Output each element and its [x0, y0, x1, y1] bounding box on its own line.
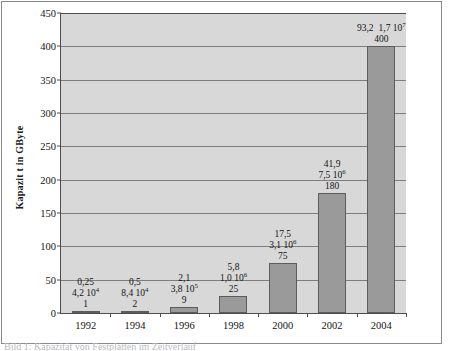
y-tick-label: 350	[40, 74, 56, 85]
bar-label-scientific: 1,0 106	[220, 273, 247, 284]
bar-value-label: 0,58,4 1042	[121, 277, 148, 310]
x-tick-mark	[258, 313, 259, 317]
x-tick-mark	[160, 313, 161, 317]
y-tick-label: 0	[51, 308, 56, 319]
bar-slot: 41,97,5 106180	[307, 13, 356, 313]
y-axis-title: Kapazit t in GByte	[10, 2, 30, 332]
bar-label-scientific: 1,7 107	[379, 23, 406, 34]
y-tick-label: 100	[40, 241, 56, 252]
bar[interactable]	[219, 296, 247, 313]
bar-value-label: 0,254,2 1041	[72, 277, 99, 310]
bar-label-value: 2	[121, 299, 148, 310]
bar-label-decimal: 93,2	[357, 23, 374, 34]
y-tick-label: 150	[40, 208, 56, 219]
bar[interactable]	[72, 311, 100, 314]
x-tick-mark	[209, 313, 210, 317]
bar-label-row: 93,21,7 107	[357, 23, 406, 34]
bar-value-label: 41,97,5 106180	[318, 159, 345, 192]
bar-label-value: 75	[269, 251, 296, 262]
bar-label-scientific: 4,2 104	[72, 288, 99, 299]
bar-label-value: 25	[220, 284, 247, 295]
bar-value-label: 5,81,0 10625	[220, 262, 247, 295]
x-tick-mark	[307, 313, 308, 317]
bar-slot: 2,13,8 1059	[160, 13, 209, 313]
y-tick-label: 50	[46, 274, 57, 285]
y-axis-title-text: Kapazit t in GByte	[15, 125, 26, 209]
x-tick-label: 1992	[75, 320, 96, 331]
y-tick-label: 200	[40, 174, 56, 185]
y-tick-label: 300	[40, 108, 56, 119]
x-tick-label: 2004	[371, 320, 392, 331]
plot-area: 050100150200250300350400450 0,254,2 1041…	[60, 13, 406, 314]
bar-slot: 17,53,1 10675	[258, 13, 307, 313]
bar-label-scientific: 8,4 104	[121, 288, 148, 299]
bottom-caption: Bild 1: Kapazität von Festplatten im Zei…	[4, 341, 404, 351]
bar-label-value: 180	[318, 181, 345, 192]
bar-slot: 0,254,2 1041	[61, 13, 110, 313]
bar-slot: 93,21,7 107400	[357, 13, 406, 313]
bar[interactable]	[367, 46, 395, 313]
x-tick-mark	[110, 313, 111, 317]
bar-label-value: 1	[72, 299, 99, 310]
bar-value-label: 17,53,1 10675	[269, 229, 296, 262]
bar[interactable]	[121, 311, 149, 314]
x-tick-label: 1998	[223, 320, 244, 331]
x-tick-mark	[357, 313, 358, 317]
x-tick-label: 2000	[272, 320, 293, 331]
bar-value-label: 93,21,7 107400	[357, 23, 406, 45]
bar[interactable]	[318, 193, 346, 313]
bar-label-scientific: 3,1 106	[269, 240, 296, 251]
bar-value-label: 2,13,8 1059	[171, 273, 198, 306]
x-tick-label: 2002	[322, 320, 343, 331]
x-tick-label: 1994	[124, 320, 145, 331]
bar[interactable]	[269, 263, 297, 313]
y-tick-label: 400	[40, 41, 56, 52]
bar-slot: 5,81,0 10625	[209, 13, 258, 313]
bar-label-value: 400	[357, 34, 406, 45]
y-tick-label: 450	[40, 8, 56, 19]
y-tick-label: 250	[40, 141, 56, 152]
bar-label-scientific: 3,8 105	[171, 284, 198, 295]
bar-label-value: 9	[171, 295, 198, 306]
figure-frame: Kapazit t in GByte 050100150200250300350…	[1, 1, 442, 344]
x-tick-label: 1996	[174, 320, 195, 331]
x-tick-mark	[406, 313, 407, 317]
bar[interactable]	[170, 307, 198, 313]
bar-slot: 0,58,4 1042	[110, 13, 159, 313]
bar-label-scientific: 7,5 106	[318, 170, 345, 181]
